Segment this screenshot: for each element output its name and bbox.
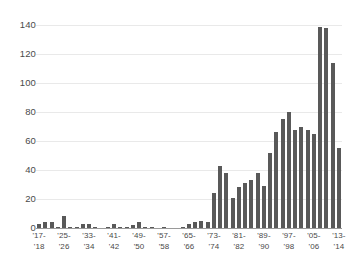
x-axis-tick-label-line1: '65- — [182, 231, 196, 240]
x-axis-tick-label-line2: '50 — [126, 242, 152, 253]
bar — [224, 173, 228, 228]
x-axis-tick-label-line1: '49- — [132, 231, 146, 240]
x-axis-tick-label: '41-'42 — [101, 231, 127, 252]
bar-series — [36, 18, 342, 228]
x-axis-tick-label: '05-'06 — [301, 231, 327, 252]
x-axis-tick-label-line2: '18 — [26, 242, 52, 253]
bar — [106, 227, 110, 228]
x-axis-tick-label: '73-'74 — [201, 231, 227, 252]
x-axis-tick-labels: '17-'18'25-'26'33-'34'41-'42'49-'50'57-'… — [36, 231, 342, 257]
y-axis-tick-label: 80 — [8, 107, 36, 117]
x-axis-tick-label: '17-'18 — [26, 231, 52, 252]
bar — [337, 148, 341, 228]
x-axis-tick-label-line1: '73- — [207, 231, 221, 240]
x-axis-tick-label-line2: '14 — [326, 242, 352, 253]
bar — [43, 222, 47, 228]
bar — [318, 27, 322, 228]
bar — [162, 227, 166, 228]
bar — [62, 216, 66, 228]
bar — [268, 153, 272, 228]
bar — [256, 173, 260, 228]
x-axis-tick-label-line2: '90 — [251, 242, 277, 253]
y-axis-tick-label: 40 — [8, 165, 36, 175]
x-axis-tick-label: '13-'14 — [326, 231, 352, 252]
bar — [218, 166, 222, 228]
bar — [125, 227, 129, 228]
bar — [131, 225, 135, 228]
x-axis-tick-label-line2: '66 — [176, 242, 202, 253]
x-axis-tick-label-line2: '98 — [276, 242, 302, 253]
x-axis-tick-label-line1: '33- — [82, 231, 96, 240]
x-axis-tick-label-line1: '89- — [257, 231, 271, 240]
bar — [187, 224, 191, 228]
bar — [93, 227, 97, 228]
bar — [150, 227, 154, 228]
bar — [287, 112, 291, 228]
bar — [81, 224, 85, 228]
bar — [50, 222, 54, 228]
bar — [299, 127, 303, 228]
bar — [331, 63, 335, 228]
bar — [324, 28, 328, 228]
y-axis-tick-label: 100 — [8, 78, 36, 88]
bar — [212, 193, 216, 228]
bar — [118, 227, 122, 228]
x-axis-tick-label: '89-'90 — [251, 231, 277, 252]
axis-baseline — [36, 228, 342, 229]
x-axis-tick-label-line1: '41- — [107, 231, 121, 240]
x-axis-tick-label-line1: '13- — [332, 231, 346, 240]
plot-area — [36, 18, 342, 228]
x-axis-tick-label: '25-'26 — [51, 231, 77, 252]
bar-chart: 020406080100120140 '17-'18'25-'26'33-'34… — [0, 0, 360, 261]
y-axis-tick-label: 140 — [8, 20, 36, 30]
bar — [181, 227, 185, 228]
bar — [56, 227, 60, 228]
bar — [306, 130, 310, 228]
bar — [231, 198, 235, 228]
bar — [243, 183, 247, 228]
x-axis-tick-label-line2: '06 — [301, 242, 327, 253]
bar — [293, 130, 297, 228]
x-axis-tick-label: '97-'98 — [276, 231, 302, 252]
bar — [137, 222, 141, 228]
bar — [193, 222, 197, 228]
x-axis-tick-label-line1: '57- — [157, 231, 171, 240]
bar — [249, 180, 253, 228]
x-axis-tick-label-line1: '05- — [307, 231, 321, 240]
x-axis-tick-label: '57-'58 — [151, 231, 177, 252]
y-axis-tick-label: 20 — [8, 194, 36, 204]
bar — [143, 227, 147, 228]
x-axis-tick-label-line1: '17- — [32, 231, 46, 240]
x-axis-tick-label-line1: '25- — [57, 231, 71, 240]
x-axis-tick-label-line2: '26 — [51, 242, 77, 253]
x-axis-tick-label-line2: '58 — [151, 242, 177, 253]
bar — [68, 227, 72, 228]
x-axis-tick-label-line2: '34 — [76, 242, 102, 253]
y-axis-tick-label: 120 — [8, 49, 36, 59]
x-axis-tick-label-line2: '82 — [226, 242, 252, 253]
x-axis-tick-label: '49-'50 — [126, 231, 152, 252]
x-axis-tick-label: '65-'66 — [176, 231, 202, 252]
y-axis-tick-label: 60 — [8, 136, 36, 146]
bar — [75, 227, 79, 228]
bar — [206, 222, 210, 228]
bar — [237, 187, 241, 228]
bar — [281, 119, 285, 228]
bar — [87, 224, 91, 228]
bar — [112, 224, 116, 228]
x-axis-tick-label-line2: '74 — [201, 242, 227, 253]
bar — [199, 221, 203, 228]
bar — [37, 224, 41, 228]
x-axis-tick-label-line1: '81- — [232, 231, 246, 240]
bar — [262, 186, 266, 228]
x-axis-tick-label: '33-'34 — [76, 231, 102, 252]
x-axis-tick-label-line2: '42 — [101, 242, 127, 253]
bar — [312, 134, 316, 228]
bar — [274, 132, 278, 228]
x-axis-tick-label: '81-'82 — [226, 231, 252, 252]
x-axis-tick-label-line1: '97- — [282, 231, 296, 240]
